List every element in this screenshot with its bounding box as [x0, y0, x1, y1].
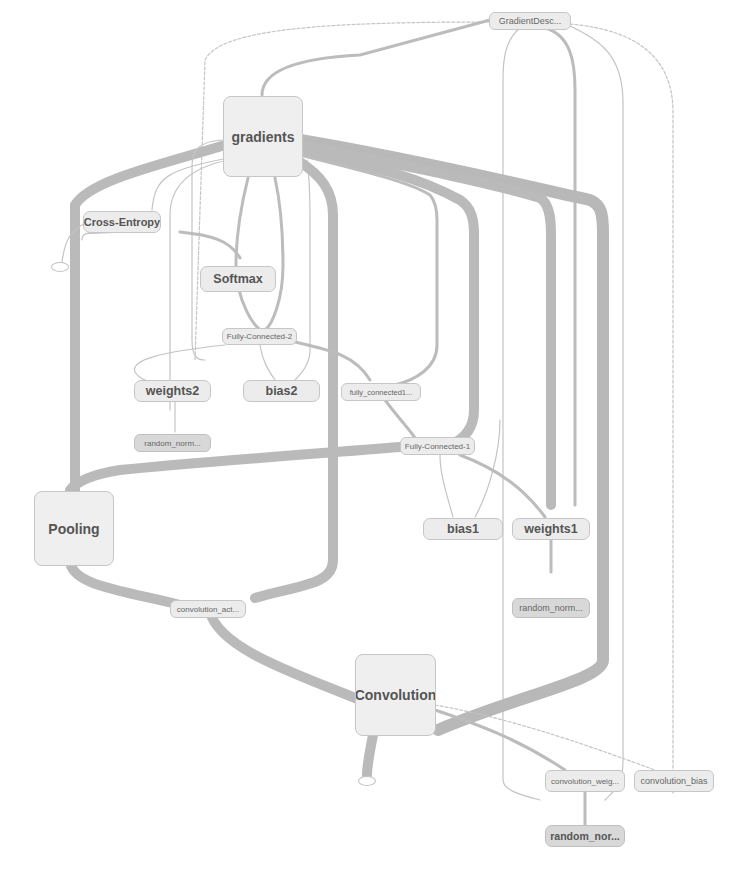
- edge-gradients-fc1var: [300, 155, 437, 385]
- edge-fc2-weights2: [134, 345, 225, 382]
- edge-gradients-gd: [262, 20, 490, 95]
- node-convolution-bias[interactable]: convolution_bias: [634, 770, 714, 792]
- node-random-norm-2[interactable]: random_norm...: [512, 598, 590, 618]
- sink-node-top: [51, 262, 69, 272]
- edge-fc1var-fc1: [385, 400, 415, 438]
- node-convolution[interactable]: Convolution: [355, 654, 436, 736]
- edge-pooling-convact: [70, 560, 180, 605]
- node-weights1[interactable]: weights1: [512, 518, 590, 540]
- edge-convact-convolution: [210, 612, 360, 700]
- node-fully-connected1-var[interactable]: fully_connected1...: [341, 383, 421, 401]
- node-fully-connected-1[interactable]: Fully-Connected-1: [400, 437, 475, 455]
- node-random-nor-3[interactable]: random_nor...: [545, 825, 625, 847]
- edge-ce-trunk: [82, 232, 120, 240]
- edge-gd-right1: [503, 28, 540, 800]
- edge-gradients-softmax: [236, 178, 262, 330]
- edge-ce-softmax: [180, 232, 240, 258]
- graph-edges: [0, 0, 750, 884]
- node-bias1[interactable]: bias1: [423, 518, 503, 540]
- node-fully-connected-2[interactable]: Fully-Connected-2: [222, 328, 297, 345]
- node-pooling[interactable]: Pooling: [34, 491, 114, 566]
- edge-gradients-far-right: [300, 140, 603, 730]
- edge-gradients-bias2: [295, 160, 310, 380]
- edge-convolution-sink: [367, 735, 373, 775]
- node-cross-entropy[interactable]: Cross-Entropy: [83, 211, 161, 233]
- node-gradients[interactable]: gradients: [223, 96, 303, 177]
- edge-gradients-fc2: [265, 178, 283, 330]
- node-bias2[interactable]: bias2: [243, 380, 320, 402]
- node-convolution-weights[interactable]: convolution_weig...: [545, 770, 625, 792]
- node-random-norm-1[interactable]: random_norm...: [134, 434, 211, 452]
- node-convolution-act[interactable]: convolution_act...: [170, 600, 246, 618]
- sink-node-bottom: [358, 776, 376, 786]
- edge-fc1-bias1-a: [440, 455, 453, 517]
- edge-fc2-bias2-a: [260, 345, 275, 380]
- node-softmax[interactable]: Softmax: [200, 266, 276, 292]
- node-weights2[interactable]: weights2: [134, 380, 211, 402]
- edge-fc1-pooling: [70, 447, 400, 490]
- node-gradient-descent[interactable]: GradientDesc...: [489, 12, 571, 30]
